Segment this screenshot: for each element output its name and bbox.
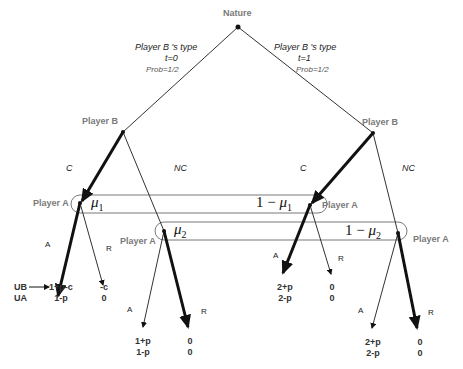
branch-left-label: Player B 's type xyxy=(135,42,197,52)
payoff-3: 1+p1-p xyxy=(128,336,158,358)
nature-node xyxy=(236,25,241,30)
player-b-node-left xyxy=(121,130,125,134)
player-b-label-right: Player B xyxy=(362,117,398,127)
branch-left-prob: Prob=1/2 xyxy=(146,65,179,74)
payoff-legend: UB UA xyxy=(14,282,27,304)
belief-one-minus-mu1: 1 − μ1 xyxy=(256,194,292,213)
belief-one-minus-mu2: 1 − μ2 xyxy=(345,222,381,241)
player-a-label-3: Player A xyxy=(322,200,358,210)
branch-right-label: Player B 's type xyxy=(274,42,336,52)
payoff-2: -c0 xyxy=(92,282,116,304)
belief-mu2: μ2 xyxy=(174,221,187,240)
branch-left-type: t=0 xyxy=(165,53,178,63)
action-a-2: A xyxy=(127,305,132,314)
player-a-node-1 xyxy=(78,201,82,205)
player-a-label-4: Player A xyxy=(413,234,449,244)
payoff-7: 2+p2-p xyxy=(358,337,388,359)
action-a-3: A xyxy=(273,251,278,260)
action-r-4: R xyxy=(428,308,434,317)
player-a-node-2 xyxy=(162,229,166,233)
payoff-1: 1+p-c1-p xyxy=(46,282,76,304)
branch-right-type: t=1 xyxy=(298,53,311,63)
nature-label: Nature xyxy=(223,8,252,18)
belief-mu1: μ1 xyxy=(91,194,104,213)
action-a-4: A xyxy=(358,306,363,315)
payoff-8: 00 xyxy=(408,337,432,359)
payoff-5: 2+p2-p xyxy=(270,282,300,304)
player-b-label-left: Player B xyxy=(82,116,118,126)
player-a-label-2: Player A xyxy=(120,236,156,246)
action-c-left: C xyxy=(66,163,73,173)
action-r-1: R xyxy=(106,244,112,253)
action-r-3: R xyxy=(338,254,344,263)
player-b-node-right xyxy=(371,131,375,135)
game-tree-edges xyxy=(0,0,463,369)
player-a-node-3 xyxy=(308,203,312,207)
action-r-2: R xyxy=(201,307,207,316)
action-nc-left: NC xyxy=(174,163,187,173)
player-a-label-1: Player A xyxy=(33,198,69,208)
branch-right-prob: Prob=1/2 xyxy=(296,65,329,74)
player-a-node-4 xyxy=(396,231,400,235)
payoff-6: 00 xyxy=(320,282,344,304)
action-c-right: C xyxy=(300,163,307,173)
action-nc-right: NC xyxy=(402,163,415,173)
action-a-1: A xyxy=(45,240,50,249)
payoff-4: 00 xyxy=(178,336,202,358)
